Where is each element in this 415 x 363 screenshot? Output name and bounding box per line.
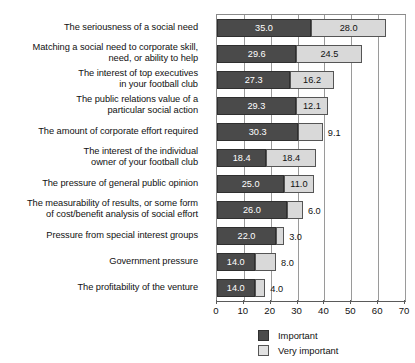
x-tick-mark (323, 300, 324, 304)
bar-segment-important: 29.3 (217, 97, 296, 115)
bar-value-label: 26.0 (243, 205, 261, 215)
bar-row: 26.06.0 (217, 201, 303, 219)
stacked-bar-chart: The seriousness of a social needMatching… (0, 0, 415, 363)
x-tick-mark (243, 300, 244, 304)
legend-item: Important (258, 328, 338, 343)
bar-row: 22.03.0 (217, 227, 284, 245)
category-label: Matching a social need to corporate skil… (0, 42, 198, 63)
bar-segment-important: 14.0 (217, 279, 255, 297)
bar-value-label: 3.0 (283, 228, 302, 246)
bar-value-label: 25.0 (242, 179, 260, 189)
bar-value-label: 6.0 (302, 202, 321, 220)
category-label: The interest of top executivesin your fo… (0, 68, 198, 89)
category-label: The amount of corporate effort required (0, 126, 198, 137)
bar-segment-very-important: 18.4 (266, 149, 315, 167)
bar-row: 25.011.0 (217, 175, 314, 193)
bar-segment-important: 30.3 (217, 123, 298, 141)
category-label-line: The seriousness of a social need (0, 22, 198, 33)
bar-value-label: 14.0 (227, 257, 245, 267)
bar-segment-important: 25.0 (217, 175, 284, 193)
gridline (378, 15, 379, 301)
category-label-line: The amount of corporate effort required (0, 126, 198, 137)
x-tick-label: 20 (264, 305, 275, 316)
category-label-line: of cost/benefit analysis of social effor… (0, 209, 198, 220)
legend-item: Very important (258, 343, 338, 358)
category-label: The profitability of the venture (0, 282, 198, 293)
bar-value-label: 18.4 (233, 153, 251, 163)
x-tick-mark (270, 300, 271, 304)
bar-value-label: 8.0 (275, 254, 294, 272)
category-label-line: particular social action (0, 105, 198, 116)
bar-segment-very-important: 24.5 (296, 45, 362, 63)
category-label-line: The public relations value of a (0, 94, 198, 105)
bar-row: 29.624.5 (217, 45, 362, 63)
category-label-line: owner of your football club (0, 157, 198, 168)
bar-value-label: 9.1 (322, 124, 341, 142)
bar-segment-important: 35.0 (217, 19, 311, 37)
category-label-line: Matching a social need to corporate skil… (0, 42, 198, 53)
legend-swatch-very (258, 345, 269, 356)
bar-value-label: 12.1 (303, 101, 321, 111)
bar-value-label: 14.0 (227, 283, 245, 293)
category-label-line: Pressure from special interest groups (0, 230, 198, 241)
category-axis-labels: The seriousness of a social needMatching… (0, 14, 206, 300)
category-label: The interest of the individualowner of y… (0, 146, 198, 167)
category-label-line: need, or ability to help (0, 53, 198, 64)
bar-value-label: 11.0 (290, 179, 307, 189)
x-tick-label: 30 (291, 305, 302, 316)
legend-label: Very important (278, 345, 338, 356)
bar-segment-important: 14.0 (217, 253, 255, 271)
bar-segment-very-important: 11.0 (284, 175, 314, 193)
bar-value-label: 24.5 (320, 49, 338, 59)
category-label: The public relations value of aparticula… (0, 94, 198, 115)
bar-value-label: 22.0 (238, 231, 256, 241)
bar-segment-important: 18.4 (217, 149, 266, 167)
bar-value-label: 29.6 (248, 49, 266, 59)
bar-segment-very-important: 8.0 (255, 253, 276, 271)
bar-row: 30.39.1 (217, 123, 323, 141)
bar-value-label: 28.0 (340, 23, 358, 33)
x-tick-label: 40 (318, 305, 329, 316)
bar-segment-important: 29.6 (217, 45, 296, 63)
bar-value-label: 18.4 (282, 153, 300, 163)
x-axis: 010203040506070 (216, 300, 404, 320)
category-label: The measurability of results, or some fo… (0, 198, 198, 219)
bar-segment-important: 22.0 (217, 227, 276, 245)
category-label-line: The interest of the individual (0, 146, 198, 157)
x-tick-label: 60 (372, 305, 383, 316)
bar-value-label: 16.2 (303, 75, 321, 85)
chart-legend: ImportantVery important (258, 328, 338, 358)
category-label-line: The profitability of the venture (0, 282, 198, 293)
x-tick-mark (216, 300, 217, 304)
bar-value-label: 29.3 (247, 101, 265, 111)
category-label-line: Government pressure (0, 256, 198, 267)
bar-segment-very-important: 16.2 (290, 71, 334, 89)
bar-segment-very-important: 28.0 (311, 19, 386, 37)
legend-swatch-important (258, 330, 269, 341)
category-label-line: The pressure of general public opinion (0, 178, 198, 189)
bar-segment-very-important: 9.1 (298, 123, 322, 141)
category-label-line: in your football club (0, 79, 198, 90)
bar-row: 35.028.0 (217, 19, 386, 37)
bar-value-label: 30.3 (249, 127, 267, 137)
plot-area: 35.028.029.624.527.316.229.312.130.39.11… (216, 14, 406, 302)
bar-row: 14.04.0 (217, 279, 265, 297)
bar-row: 14.08.0 (217, 253, 276, 271)
category-label: Pressure from special interest groups (0, 230, 198, 241)
bar-value-label: 4.0 (264, 280, 283, 298)
bar-value-label: 27.3 (245, 75, 263, 85)
category-label: Government pressure (0, 256, 198, 267)
bar-segment-important: 26.0 (217, 201, 287, 219)
x-tick-label: 10 (238, 305, 249, 316)
x-tick-label: 50 (345, 305, 356, 316)
x-tick-label: 0 (213, 305, 218, 316)
bar-segment-very-important: 4.0 (255, 279, 266, 297)
bar-segment-important: 27.3 (217, 71, 290, 89)
x-tick-label: 70 (399, 305, 410, 316)
x-tick-mark (377, 300, 378, 304)
bar-row: 29.312.1 (217, 97, 328, 115)
bar-segment-very-important: 12.1 (296, 97, 328, 115)
category-label: The pressure of general public opinion (0, 178, 198, 189)
bar-value-label: 35.0 (255, 23, 273, 33)
category-label-line: The measurability of results, or some fo… (0, 198, 198, 209)
